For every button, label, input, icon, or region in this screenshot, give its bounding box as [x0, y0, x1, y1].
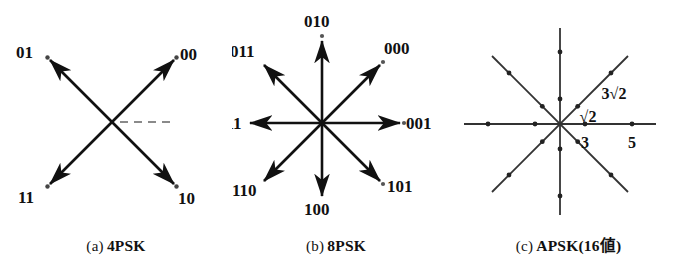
- diagram-apsk: 3√2 √2 3 5: [440, 0, 697, 215]
- constellation-dot: [540, 139, 545, 144]
- phasor-label-01: 01: [16, 43, 33, 62]
- caption-name-apsk: APSK(16値): [536, 237, 621, 254]
- phasor-label-001: 001: [406, 114, 432, 133]
- caption-tag-8psk: (b): [306, 238, 324, 254]
- phasor-label-100: 100: [304, 200, 330, 215]
- axis-tick-label-3: 3: [581, 134, 589, 151]
- diagram-4psk: 00 01 11 10: [0, 0, 232, 215]
- constellation-dot-01: [45, 55, 49, 59]
- caption-4psk: (a)4PSK: [0, 237, 232, 255]
- caption-apsk: (c)APSK(16値): [440, 233, 697, 255]
- constellation-dot: [507, 71, 512, 76]
- panel-4psk: 00 01 11 10 (a)4PSK: [0, 0, 232, 279]
- phasor-label-10: 10: [178, 189, 195, 208]
- constellation-dot: [486, 122, 491, 127]
- constellation-dot: [609, 173, 614, 178]
- phasor-arrow-110: [264, 123, 322, 181]
- phasor-label-111: 111: [232, 114, 242, 133]
- caption-name-4psk: 4PSK: [107, 237, 146, 254]
- figure-constellation-diagrams: 00 01 11 10 (a)4PSK: [0, 0, 697, 279]
- phasor-label-010: 010: [304, 12, 330, 31]
- constellation-dot-11: [45, 184, 49, 188]
- annotation-outer-radius: 3√2: [602, 85, 627, 102]
- caption-8psk: (b)8PSK: [232, 237, 440, 255]
- constellation-dot: [507, 173, 512, 178]
- constellation-dot: [609, 71, 614, 76]
- phasor-arrow-11: [50, 122, 112, 184]
- constellation-dot: [575, 139, 580, 144]
- caption-tag-4psk: (a): [86, 238, 104, 254]
- constellation-dot: [630, 122, 635, 127]
- phasor-label-101: 101: [387, 177, 413, 196]
- constellation-dot: [558, 147, 563, 152]
- constellation-dot: [540, 104, 545, 109]
- diagram-8psk: 010 000 001 101 100 110: [232, 0, 440, 215]
- phasor-label-000: 000: [384, 39, 410, 58]
- phasor-arrow-00: [112, 60, 174, 122]
- caption-tag-apsk: (c): [516, 238, 534, 254]
- constellation-dot: [558, 97, 563, 102]
- phasor-arrow-101: [322, 123, 380, 181]
- phasor-arrow-000: [322, 65, 380, 123]
- constellation-dot-00: [174, 55, 178, 59]
- phasor-arrow-10: [112, 122, 174, 184]
- panel-8psk: 010 000 001 101 100 110: [232, 0, 440, 279]
- constellation-dot: [558, 50, 563, 55]
- phasor-label-11: 11: [18, 188, 34, 207]
- phasor-label-011: 011: [232, 42, 255, 61]
- phasor-label-110: 110: [232, 181, 257, 200]
- constellation-dot: [533, 122, 538, 127]
- constellation-dot-101: [381, 182, 385, 186]
- constellation-dot-000: [381, 60, 385, 64]
- constellation-dot-010: [320, 34, 324, 38]
- phasor-label-00: 00: [180, 45, 197, 64]
- phasor-arrow-011: [264, 65, 322, 123]
- caption-name-8psk: 8PSK: [327, 237, 366, 254]
- annotation-inner-radius: √2: [580, 108, 597, 125]
- axis-tick-label-5: 5: [628, 134, 636, 151]
- constellation-dot: [558, 194, 563, 199]
- phasor-arrow-01: [50, 60, 112, 122]
- panel-apsk: 3√2 √2 3 5 (c)APSK(16値): [440, 0, 697, 279]
